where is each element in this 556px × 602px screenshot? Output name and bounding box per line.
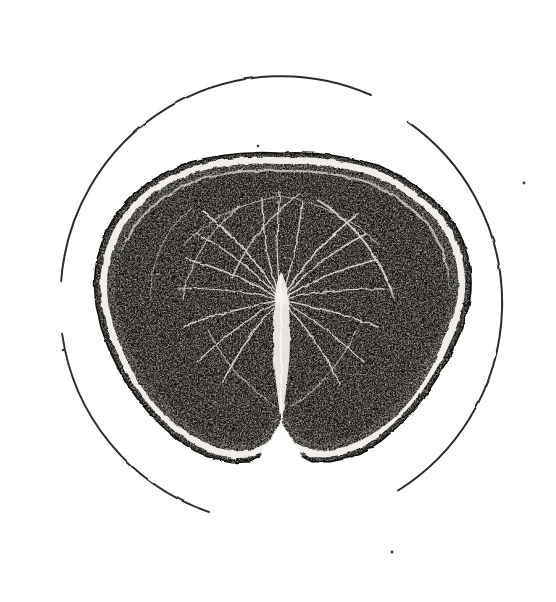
paper-speck-right <box>523 182 526 185</box>
figure-plate <box>0 0 556 602</box>
paper-speck-left <box>62 349 64 351</box>
paper-speck-mid <box>448 302 450 304</box>
paper-speck-top <box>257 145 260 148</box>
paper-speck-bottom <box>391 551 394 554</box>
